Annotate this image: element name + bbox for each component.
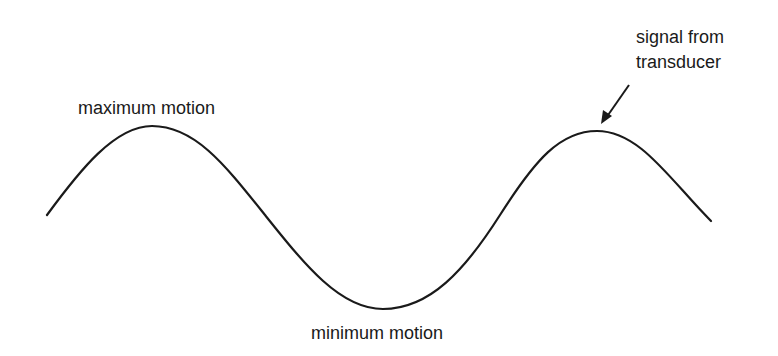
arrow-icon [601, 85, 629, 124]
waveform-diagram: maximum motion minimum motion signal fro… [0, 0, 778, 356]
signal-label-line2: transducer [636, 52, 721, 72]
signal-label-line1: signal from [636, 27, 724, 47]
minimum-motion-label: minimum motion [311, 323, 443, 343]
maximum-motion-label: maximum motion [78, 98, 215, 118]
sine-wave-curve [47, 126, 711, 309]
